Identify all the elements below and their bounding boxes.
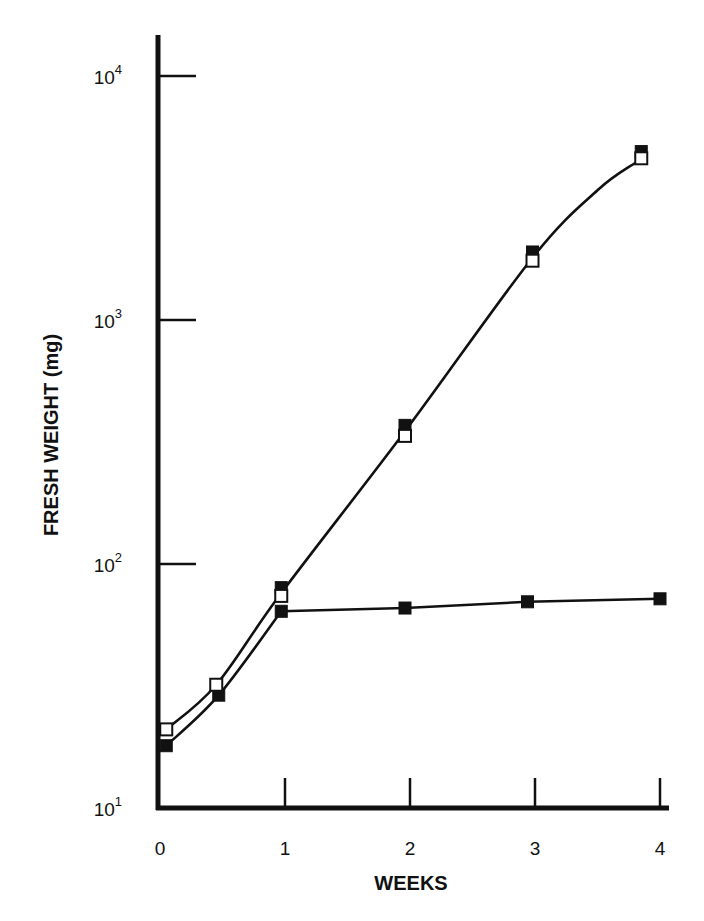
y-tick-label: 103 bbox=[94, 306, 122, 332]
open-square-marker bbox=[210, 679, 222, 691]
x-tick-label: 2 bbox=[405, 838, 416, 859]
x-ticks: 01234 bbox=[155, 778, 666, 859]
x-tick-label: 0 bbox=[155, 838, 166, 859]
x-tick-label: 1 bbox=[280, 838, 291, 859]
y-axis-title: FRESH WEIGHT (mg) bbox=[40, 334, 62, 536]
y-ticks: 101102103104 bbox=[94, 62, 196, 820]
growth-chart: 101102103104 01234 WEEKS FRESH WEIGHT (m… bbox=[0, 0, 704, 921]
x-axis-title: WEEKS bbox=[374, 872, 447, 894]
y-tick-label: 102 bbox=[94, 550, 122, 576]
data-markers bbox=[160, 146, 666, 752]
open-square-marker bbox=[399, 430, 411, 442]
filled-square-marker bbox=[654, 593, 666, 605]
y-tick-label: 104 bbox=[94, 62, 122, 88]
y-tick-label: 101 bbox=[94, 794, 122, 820]
filled-square-marker bbox=[399, 602, 411, 614]
upper-fit-curve bbox=[166, 163, 635, 729]
open-square-marker bbox=[635, 152, 647, 164]
plateau-line bbox=[281, 599, 660, 611]
open-square-marker bbox=[275, 590, 287, 602]
open-square-marker bbox=[527, 255, 539, 267]
x-tick-label: 4 bbox=[655, 838, 666, 859]
open-square-marker bbox=[160, 723, 172, 735]
lower-fit-curve bbox=[166, 611, 281, 745]
fit-curves bbox=[166, 163, 660, 746]
x-tick-label: 3 bbox=[530, 838, 541, 859]
filled-square-marker bbox=[275, 605, 287, 617]
filled-square-marker bbox=[522, 596, 534, 608]
filled-square-marker bbox=[160, 740, 172, 752]
